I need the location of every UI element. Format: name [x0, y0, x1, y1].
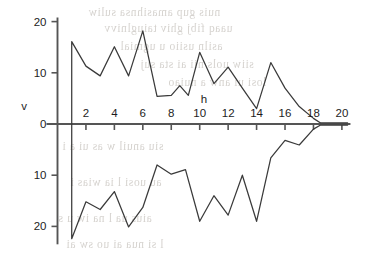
y-tick-label-1: 10 [34, 67, 47, 79]
x-tick-label-2: 6 [140, 107, 146, 119]
x-tick-label-6: 14 [250, 107, 263, 119]
x-tick-label-5: 12 [222, 107, 235, 119]
chart-plot-area: 2010010202468101214161820vh [0, 0, 370, 264]
y-tick-label-3: 10 [34, 169, 47, 181]
x-tick-label-1: 4 [111, 107, 118, 119]
chart-figure: nuis gup amasihnsa suliw uaaq fibj ghiv … [0, 0, 370, 264]
axes-layer [47, 18, 351, 245]
x-tick-label-8: 18 [307, 107, 320, 119]
y-tick-label-0: 20 [34, 16, 47, 28]
x-tick-label-9: 20 [336, 107, 349, 119]
y-axis-title: v [21, 100, 27, 112]
y-tick-label-4: 20 [34, 220, 47, 232]
x-tick-label-7: 16 [279, 107, 292, 119]
x-tick-label-0: 2 [83, 107, 89, 119]
x-tick-label-4: 10 [193, 107, 206, 119]
series-line-1 [72, 124, 348, 239]
x-tick-label-3: 8 [168, 107, 174, 119]
x-axis-title: h [201, 93, 207, 105]
y-tick-label-2: 0 [40, 118, 46, 130]
series-layer [72, 31, 348, 239]
